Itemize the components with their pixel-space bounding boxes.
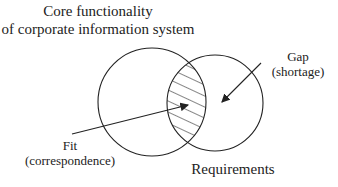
requirements-label: Requirements [178, 160, 288, 178]
venn-diagram: Core functionality of corporate informat… [0, 0, 338, 187]
gap-line1: Gap [268, 49, 328, 64]
gap-label: Gap (shortage) [268, 49, 328, 79]
fit-line2: (correspondence) [20, 153, 120, 168]
gap-arrow [222, 63, 261, 102]
fit-label: Fit (correspondence) [20, 138, 120, 168]
fit-line1: Fit [20, 138, 120, 153]
gap-line2: (shortage) [268, 64, 328, 79]
